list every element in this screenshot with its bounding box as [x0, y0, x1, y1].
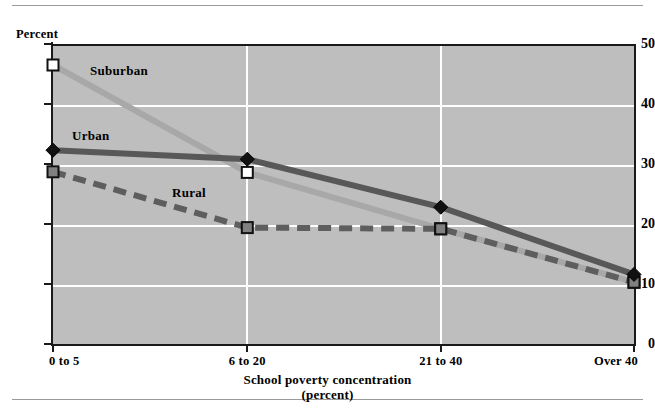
series-line-suburban	[53, 65, 634, 282]
data-point-marker-open-square	[48, 60, 59, 71]
figure-panel: Percent 01020304050 0 to 56 to 2021 to 4…	[0, 0, 655, 419]
series-label-suburban: Suburban	[90, 63, 148, 79]
data-point-marker-filled-square	[242, 222, 253, 233]
data-point-marker-filled-diamond	[240, 152, 254, 166]
data-point-marker-filled-diamond	[434, 200, 448, 214]
data-point-marker-open-square	[242, 167, 253, 178]
data-point-marker-filled-square	[48, 166, 59, 177]
x-axis-title-line1: School poverty concentration	[0, 372, 655, 388]
series-label-rural: Rural	[172, 185, 206, 201]
data-point-marker-filled-diamond	[46, 143, 60, 157]
data-point-marker-filled-square	[435, 223, 446, 234]
x-axis-title-line2: (percent)	[0, 387, 655, 403]
series-label-urban: Urban	[72, 128, 110, 144]
series-line-rural	[53, 172, 634, 282]
